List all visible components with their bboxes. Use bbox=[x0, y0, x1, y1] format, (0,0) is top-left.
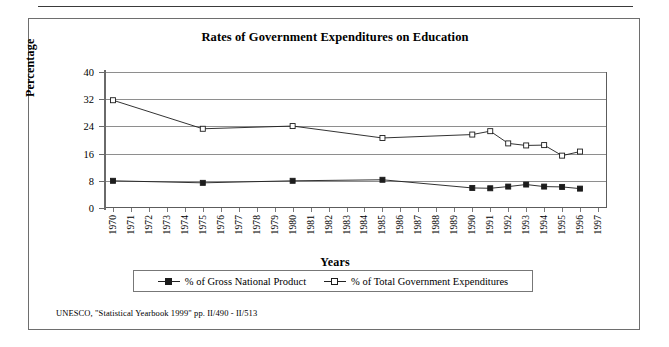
x-tick-mark bbox=[203, 208, 204, 212]
x-tick-mark bbox=[131, 208, 132, 212]
source-note: UNESCO, "Statistical Yearbook 1999" pp. … bbox=[56, 308, 257, 318]
y-tick-label: 8 bbox=[68, 175, 94, 186]
y-tick-label: 40 bbox=[68, 67, 94, 78]
open-square-marker bbox=[200, 126, 205, 131]
x-tick-label: 1981 bbox=[306, 215, 316, 234]
x-tick-mark bbox=[526, 208, 527, 212]
x-tick-mark bbox=[508, 208, 509, 212]
x-tick-label: 1989 bbox=[449, 215, 459, 234]
y-tick-label: 16 bbox=[68, 148, 94, 159]
x-tick-label: 1995 bbox=[557, 215, 567, 234]
x-tick-mark bbox=[275, 208, 276, 212]
open-square-marker bbox=[524, 143, 529, 148]
x-tick-mark bbox=[382, 208, 383, 212]
x-tick-label: 1984 bbox=[359, 215, 369, 234]
x-tick-mark bbox=[311, 208, 312, 212]
x-tick-label: 1978 bbox=[252, 215, 262, 234]
x-tick-label: 1993 bbox=[521, 215, 531, 234]
y-tick-mark bbox=[99, 72, 104, 73]
x-tick-label: 1979 bbox=[270, 215, 280, 234]
filled-square-marker bbox=[200, 180, 205, 185]
y-tick-label: 0 bbox=[68, 203, 94, 214]
open-square-marker bbox=[290, 124, 295, 129]
x-tick-mark bbox=[400, 208, 401, 212]
filled-square-marker-icon bbox=[158, 277, 180, 286]
x-tick-label: 1977 bbox=[234, 215, 244, 234]
open-square-marker bbox=[578, 149, 583, 154]
y-tick-mark bbox=[99, 181, 104, 182]
open-square-marker bbox=[506, 141, 511, 146]
series-line-total-gov bbox=[113, 100, 580, 155]
x-tick-mark bbox=[490, 208, 491, 212]
filled-square-marker bbox=[524, 182, 529, 187]
open-square-marker bbox=[560, 153, 565, 158]
x-tick-mark bbox=[329, 208, 330, 212]
filled-square-marker bbox=[506, 184, 511, 189]
filled-square-marker bbox=[488, 186, 493, 191]
x-tick-label: 1991 bbox=[485, 215, 495, 234]
x-tick-label: 1970 bbox=[108, 215, 118, 234]
x-tick-mark bbox=[239, 208, 240, 212]
x-tick-label: 1983 bbox=[342, 215, 352, 234]
y-tick-mark bbox=[99, 154, 104, 155]
x-tick-mark bbox=[364, 208, 365, 212]
y-tick-label: 24 bbox=[68, 121, 94, 132]
y-tick-mark bbox=[99, 126, 104, 127]
x-tick-label: 1975 bbox=[198, 215, 208, 234]
x-tick-mark bbox=[293, 208, 294, 212]
legend-item-total-gov: % of Total Government Expenditures bbox=[324, 276, 508, 287]
x-tick-mark bbox=[472, 208, 473, 212]
legend-item-gnp: % of Gross National Product bbox=[158, 276, 306, 287]
x-tick-label: 1990 bbox=[467, 215, 477, 234]
x-tick-mark bbox=[598, 208, 599, 212]
x-tick-label: 1987 bbox=[413, 215, 423, 234]
x-tick-label: 1986 bbox=[395, 215, 405, 234]
x-tick-mark bbox=[149, 208, 150, 212]
x-tick-label: 1985 bbox=[377, 215, 387, 234]
open-square-marker bbox=[488, 129, 493, 134]
filled-square-marker bbox=[542, 184, 547, 189]
chart-legend: % of Gross National Product % of Total G… bbox=[133, 270, 533, 292]
x-tick-label: 1982 bbox=[324, 215, 334, 234]
x-tick-label: 1994 bbox=[539, 215, 549, 234]
page-top-rule bbox=[38, 6, 633, 7]
x-tick-label: 1980 bbox=[288, 215, 298, 234]
open-square-marker bbox=[470, 132, 475, 137]
x-tick-mark bbox=[580, 208, 581, 212]
open-square-marker-icon bbox=[324, 277, 346, 286]
x-tick-mark bbox=[185, 208, 186, 212]
x-tick-mark bbox=[221, 208, 222, 212]
x-axis-title: Years bbox=[29, 255, 641, 270]
y-tick-label: 32 bbox=[68, 94, 94, 105]
x-tick-mark bbox=[562, 208, 563, 212]
filled-square-marker bbox=[290, 178, 295, 183]
filled-square-marker bbox=[110, 178, 115, 183]
x-tick-label: 1992 bbox=[503, 215, 513, 234]
chart-figure-frame: Rates of Government Expenditures on Educ… bbox=[28, 18, 640, 330]
x-tick-label: 1988 bbox=[431, 215, 441, 234]
x-tick-label: 1973 bbox=[162, 215, 172, 234]
x-tick-label: 1971 bbox=[126, 215, 136, 234]
filled-square-marker bbox=[560, 184, 565, 189]
y-tick-mark bbox=[99, 99, 104, 100]
x-tick-label: 1996 bbox=[575, 215, 585, 234]
x-tick-mark bbox=[113, 208, 114, 212]
legend-label-gnp: % of Gross National Product bbox=[185, 276, 306, 287]
x-tick-label: 1997 bbox=[593, 215, 603, 234]
x-tick-label: 1974 bbox=[180, 215, 190, 234]
legend-label-total-gov: % of Total Government Expenditures bbox=[351, 276, 508, 287]
open-square-marker bbox=[542, 143, 547, 148]
x-tick-mark bbox=[347, 208, 348, 212]
open-square-marker bbox=[110, 98, 115, 103]
x-tick-mark bbox=[454, 208, 455, 212]
x-tick-mark bbox=[436, 208, 437, 212]
open-square-marker bbox=[380, 135, 385, 140]
y-tick-mark bbox=[99, 208, 104, 209]
x-tick-mark bbox=[167, 208, 168, 212]
x-tick-mark bbox=[418, 208, 419, 212]
filled-square-marker bbox=[470, 185, 475, 190]
x-tick-label: 1972 bbox=[144, 215, 154, 234]
filled-square-marker bbox=[578, 186, 583, 191]
x-tick-label: 1976 bbox=[216, 215, 226, 234]
filled-square-marker bbox=[380, 177, 385, 182]
